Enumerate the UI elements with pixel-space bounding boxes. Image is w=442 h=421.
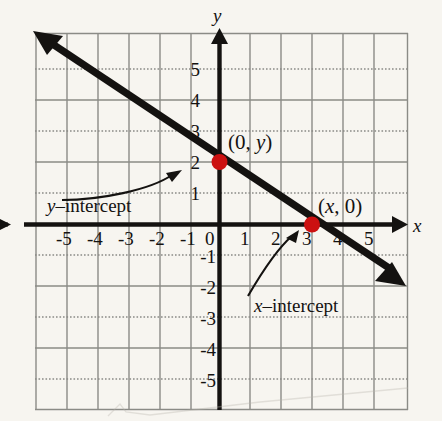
- y-tick-label: 5: [191, 59, 201, 80]
- x-axis-label: x: [412, 215, 422, 236]
- x-tick-label: -3: [118, 228, 134, 249]
- figure-page: x y -5 -4 -3 -2 -1 0 1 2 3 4 5 5 4 3 2 1…: [0, 0, 442, 421]
- y-tick-label: -2: [200, 277, 216, 298]
- x-tick-label: 5: [364, 228, 374, 249]
- x-tick-label: -4: [87, 228, 103, 249]
- y-tick-label: 4: [191, 90, 201, 111]
- y-tick-label: 2: [191, 152, 201, 173]
- y-intercept-point: [212, 154, 228, 170]
- x-tick-label: -1: [180, 228, 196, 249]
- x-tick-label: -2: [149, 228, 165, 249]
- y-tick-label: -3: [200, 308, 216, 329]
- x-tick-label: 1: [240, 228, 250, 249]
- x-intercept-callout-label: x–intercept: [253, 295, 339, 316]
- y-tick-label: 1: [191, 183, 201, 204]
- y-tick-label: -5: [200, 370, 216, 391]
- x-tick-label: 2: [271, 228, 281, 249]
- coordinate-plane-figure: x y -5 -4 -3 -2 -1 0 1 2 3 4 5 5 4 3 2 1…: [0, 0, 442, 421]
- x-intercept-point: [304, 217, 320, 233]
- y-axis-label: y: [211, 5, 222, 26]
- y-intercept-point-label: (0, y): [228, 130, 272, 154]
- x-intercept-point-label: (x, 0): [318, 194, 362, 218]
- y-tick-label: -4: [200, 339, 216, 360]
- y-intercept-callout-label: y–intercept: [45, 195, 132, 216]
- y-tick-label: -1: [200, 246, 216, 267]
- x-tick-label: -5: [56, 228, 72, 249]
